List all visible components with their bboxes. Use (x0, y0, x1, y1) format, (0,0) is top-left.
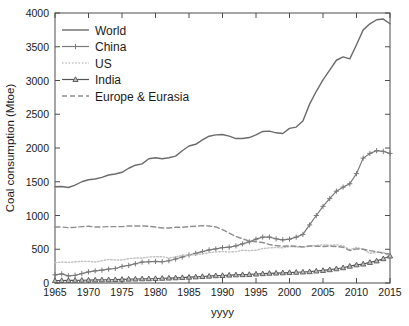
legend-label: World (95, 24, 126, 38)
y-axis-title: Coal consumption (Mtoe) (4, 84, 16, 213)
x-tick-label: 1980 (144, 286, 168, 298)
x-axis-title: yyyy (211, 306, 234, 318)
x-tick-label: 1985 (177, 286, 201, 298)
y-tick-label: 500 (31, 243, 49, 255)
x-tick-label: 1990 (211, 286, 235, 298)
x-tick-label: 2005 (311, 286, 335, 298)
x-tick-label: 2015 (378, 286, 402, 298)
y-tick-label: 4000 (26, 7, 50, 19)
legend-label: US (95, 57, 112, 71)
y-tick-label: 3500 (26, 41, 50, 53)
x-tick-label: 1975 (110, 286, 134, 298)
y-tick-label: 3000 (26, 75, 50, 87)
x-tick-label: 2010 (345, 286, 369, 298)
y-tick-label: 1500 (26, 176, 50, 188)
chart-figure: 1965197019751980198519901995200020052010… (0, 0, 409, 326)
x-tick-label: 1995 (244, 286, 268, 298)
legend-label: China (95, 40, 127, 54)
coal-consumption-line-chart: 1965197019751980198519901995200020052010… (0, 0, 409, 326)
y-tick-label: 0 (43, 277, 49, 289)
x-tick-label: 1970 (77, 286, 101, 298)
y-tick-label: 2000 (26, 142, 50, 154)
legend-label: Europe & Eurasia (95, 90, 189, 104)
legend-label: India (95, 73, 121, 87)
y-tick-label: 2500 (26, 108, 50, 120)
x-tick-label: 2000 (278, 286, 302, 298)
y-tick-label: 1000 (26, 210, 50, 222)
